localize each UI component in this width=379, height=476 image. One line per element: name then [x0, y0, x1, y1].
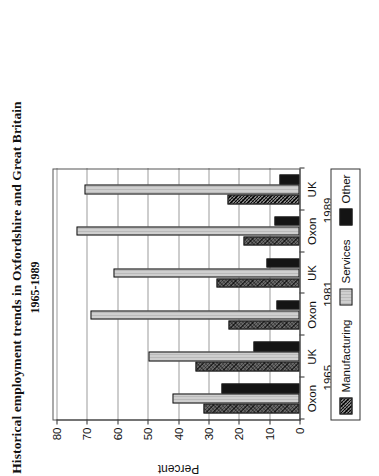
bar-services-1981-uk	[113, 268, 299, 278]
x-axis-category-label: UK	[305, 348, 317, 364]
bar-manufacturing-1981-uk	[216, 278, 299, 288]
bar-services-1981-oxon	[90, 310, 299, 320]
figure: Historical employment trends in Oxfordsh…	[0, 0, 379, 476]
page-title: Historical employment trends in Oxfordsh…	[8, 98, 24, 476]
y-axis-title: Percent	[56, 460, 300, 476]
bar-other-1989-uk	[279, 174, 299, 184]
chart-image: Historical employment trends in Oxfordsh…	[0, 0, 379, 476]
y-axis-title-label: Percent	[157, 461, 198, 475]
bar-other-1965-uk	[253, 342, 299, 352]
gridline	[56, 168, 57, 419]
plot-area: 01020304050607080OxonUKOxonUKOxonUK19651…	[56, 168, 300, 420]
gridline	[269, 168, 270, 419]
y-axis-tick-label: 10	[263, 427, 275, 440]
y-axis-tick	[56, 419, 57, 424]
legend-item-label: Other	[339, 174, 351, 203]
y-axis-tick	[238, 419, 239, 424]
y-axis-tick-label: 70	[80, 427, 92, 440]
legend-item[interactable]: Other	[339, 174, 352, 225]
y-axis-tick	[208, 419, 209, 424]
y-axis-tick-label: 40	[172, 427, 184, 440]
legend-item-label: Manufacturing	[339, 319, 351, 392]
legend-swatch-other-icon	[339, 208, 352, 225]
gridline	[178, 168, 179, 419]
legend-item-label: Services	[339, 239, 351, 283]
legend-swatch-manufacturing-icon	[339, 397, 352, 414]
gridline	[208, 168, 209, 419]
y-axis-tick-label: 20	[232, 427, 244, 440]
y-axis-tick-label: 80	[50, 427, 62, 440]
y-axis-tick-label: 0	[293, 427, 305, 433]
bar-manufacturing-1981-oxon	[228, 320, 299, 330]
x-axis-tick	[299, 167, 304, 168]
gridline	[238, 168, 239, 419]
x-axis-category-label: Oxon	[305, 217, 317, 245]
x-axis-category-label: Oxon	[305, 301, 317, 329]
y-axis-tick-label: 30	[202, 427, 214, 440]
chart-legend: ManufacturingServicesOther	[330, 168, 360, 420]
bar-other-1989-oxon	[274, 216, 299, 226]
chart-subtitle: 1965-1989	[27, 98, 42, 476]
bar-other-1981-uk	[266, 258, 299, 268]
y-axis-tick	[117, 419, 118, 424]
x-axis-category-label: UK	[305, 181, 317, 197]
x-axis-tick	[299, 293, 304, 294]
bar-manufacturing-1989-uk	[227, 194, 299, 204]
legend-item[interactable]: Manufacturing	[339, 319, 352, 414]
bar-services-1989-oxon	[76, 226, 299, 236]
chart-title-block: Historical employment trends in Oxfordsh…	[8, 98, 42, 476]
x-axis-category-label: UK	[305, 265, 317, 281]
rotated-figure: Historical employment trends in Oxfordsh…	[0, 0, 379, 476]
legend-item[interactable]: Services	[339, 239, 352, 305]
x-axis-tick	[299, 418, 304, 419]
gridline	[117, 168, 118, 419]
x-axis-tick	[299, 209, 304, 210]
gridline	[147, 168, 148, 419]
bar-services-1965-uk	[148, 352, 299, 362]
x-axis-tick	[299, 334, 304, 335]
y-axis-tick	[86, 419, 87, 424]
legend-swatch-services-icon	[339, 288, 352, 305]
bar-manufacturing-1989-oxon	[243, 236, 299, 246]
x-axis-tick	[299, 376, 304, 377]
bar-manufacturing-1965-oxon	[203, 403, 299, 413]
bar-services-1989-uk	[84, 184, 299, 194]
y-axis-tick	[178, 419, 179, 424]
y-axis-tick-label: 50	[141, 427, 153, 440]
y-axis-tick	[299, 419, 300, 424]
x-axis-category-label: Oxon	[305, 384, 317, 412]
y-axis-tick	[147, 419, 148, 424]
bar-other-1981-oxon	[276, 300, 299, 310]
x-axis-tick	[299, 251, 304, 252]
y-axis-tick-label: 60	[111, 427, 123, 440]
bar-other-1965-oxon	[221, 383, 299, 393]
bar-services-1965-oxon	[172, 393, 299, 403]
y-axis-tick	[269, 419, 270, 424]
gridline	[86, 168, 87, 419]
bar-manufacturing-1965-uk	[195, 362, 299, 372]
